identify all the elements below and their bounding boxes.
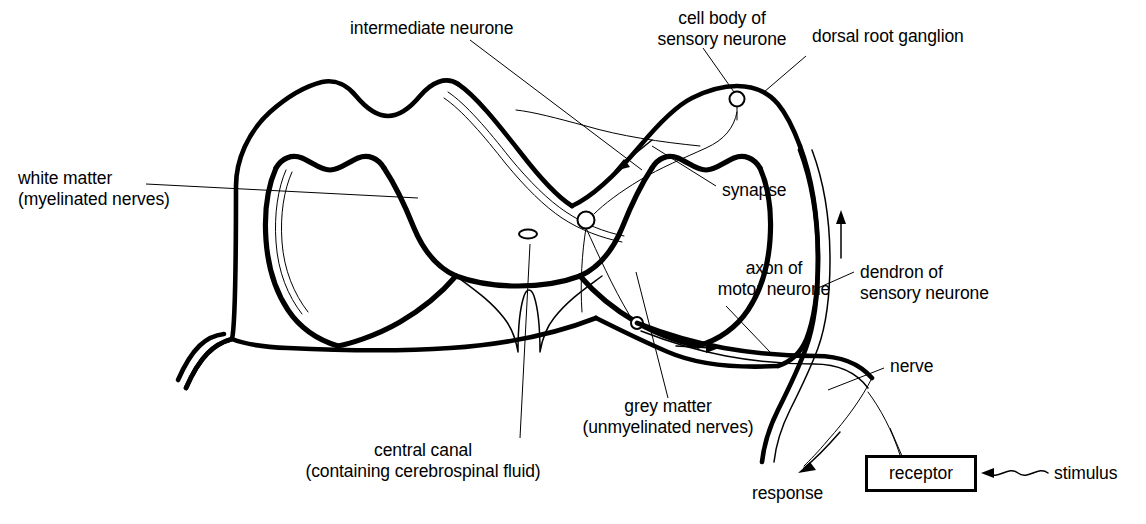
label-axon-of-motor-neurone: axon of motor neurone [706, 258, 842, 300]
arrow-stimulus-in [981, 468, 1048, 478]
receptor-box: receptor [865, 455, 977, 492]
arrow-sensory-up [836, 210, 846, 258]
leader-nerve [828, 368, 884, 390]
arrow-intermediate-down-left [614, 140, 652, 171]
spinal-cord-reflex-arc-diagram: .thick{fill:none;stroke:#000;stroke-widt… [0, 0, 1146, 524]
leader-white-matter [146, 184, 418, 198]
label-stimulus: stimulus [1054, 463, 1117, 484]
nerve-bundle [804, 378, 900, 466]
central-canal [519, 230, 537, 239]
label-dendron-of-sensory-neurone: dendron of sensory neurone [860, 262, 989, 304]
label-central-canal: central canal (containing cerebrospinal … [272, 440, 574, 482]
label-receptor: receptor [889, 463, 953, 484]
leader-receptor [890, 428, 902, 456]
sensory-neurone-cell-body-circle [730, 92, 745, 107]
arrow-response-out [798, 432, 840, 473]
label-white-matter: white matter (myelinated nerves) [18, 168, 170, 210]
label-nerve: nerve [890, 356, 933, 377]
leader-synapse [652, 146, 716, 186]
synapse-dorsal-circle [578, 212, 595, 229]
label-dorsal-root-ganglion: dorsal root ganglion [812, 26, 964, 47]
leader-cell-body [703, 48, 734, 92]
label-intermediate-neurone: intermediate neurone [350, 18, 513, 39]
label-grey-matter: grey matter (unmyelinated nerves) [556, 396, 780, 438]
label-synapse: synapse [722, 180, 786, 201]
grey-matter-butterfly [265, 156, 770, 352]
white-matter-outline [178, 80, 818, 388]
label-response: response [752, 483, 823, 504]
label-cell-body-of-sensory-neurone: cell body of sensory neurone [642, 8, 802, 50]
leader-dorsal-root-ganglion [764, 56, 806, 92]
